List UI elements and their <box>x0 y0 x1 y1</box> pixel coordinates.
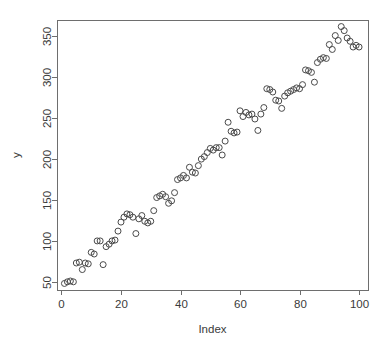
data-point <box>204 150 210 156</box>
x-tick-label: 40 <box>175 298 188 310</box>
data-point <box>329 46 335 52</box>
y-tick-label: 250 <box>41 109 53 128</box>
data-point <box>115 228 121 234</box>
data-point-group <box>61 24 362 287</box>
data-point <box>195 163 201 169</box>
data-point <box>79 267 85 273</box>
y-tick-label: 350 <box>41 27 53 46</box>
plot-box <box>58 21 369 291</box>
data-point <box>100 262 106 268</box>
data-point <box>240 114 246 120</box>
data-point <box>225 119 231 125</box>
data-point <box>300 82 306 88</box>
data-point <box>341 28 347 34</box>
y-axis-tick-labels: 50100150200250300350 <box>41 27 53 289</box>
data-point <box>252 116 258 122</box>
data-point <box>338 24 344 30</box>
x-axis-tick-labels: 020406080100 <box>58 298 369 310</box>
y-tick-label: 200 <box>41 150 53 169</box>
y-tick-label: 300 <box>41 68 53 87</box>
x-tick-label: 100 <box>350 298 369 310</box>
scatter-plot-figure: 50100150200250300350 020406080100 Index … <box>0 0 388 347</box>
plot-frame <box>58 21 369 291</box>
data-point <box>219 152 225 158</box>
data-point <box>237 108 243 114</box>
y-tick-label: 50 <box>41 276 53 289</box>
data-point <box>258 111 264 117</box>
data-point <box>222 138 228 144</box>
data-point <box>279 105 285 111</box>
data-point <box>255 127 261 133</box>
data-point <box>311 79 317 85</box>
plot-canvas: 50100150200250300350 020406080100 Index … <box>0 0 388 347</box>
y-tick-label: 100 <box>41 232 53 251</box>
x-tick-label: 0 <box>58 298 64 310</box>
y-axis-title: y <box>10 152 22 158</box>
x-axis-title: Index <box>198 323 226 335</box>
data-point <box>151 208 157 214</box>
data-point <box>335 37 341 43</box>
data-point <box>172 190 178 196</box>
x-tick-label: 60 <box>234 298 247 310</box>
x-tick-label: 20 <box>115 298 128 310</box>
data-point <box>261 105 267 111</box>
x-tick-label: 80 <box>294 298 307 310</box>
data-point <box>133 231 139 237</box>
y-tick-label: 150 <box>41 191 53 210</box>
